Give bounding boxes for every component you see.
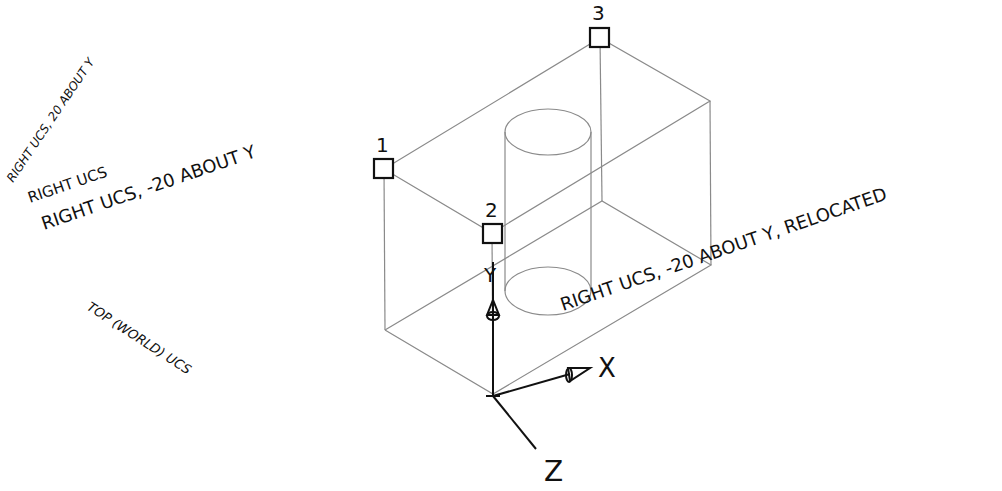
label-right-ucs-20-about-y: RIGHT UCS, 20 ABOUT Y — [4, 54, 98, 184]
label-relocated: RIGHT UCS, -20 ABOUT Y, RELOCATED — [557, 183, 889, 315]
svg-text:3: 3 — [592, 1, 605, 25]
svg-text:2: 2 — [485, 198, 498, 222]
box-wireframe — [384, 38, 711, 394]
y-axis-label: Y — [483, 263, 497, 287]
pick-point-3[interactable]: 3 — [590, 1, 609, 47]
svg-text:1: 1 — [376, 133, 389, 157]
label-top-world-ucs: TOP (WORLD) UCS — [84, 299, 194, 377]
x-axis-label: X — [598, 353, 616, 383]
x-arrow-icon — [566, 368, 590, 382]
pick-point-2[interactable]: 2 — [483, 198, 502, 243]
ucs-diagram: 1 2 3 Y X Z RIGHT UCS, 20 ABOUT Y RIGHT … — [0, 0, 1002, 491]
pick-point-1[interactable]: 1 — [374, 133, 393, 178]
cylinder — [505, 109, 591, 315]
z-axis-label: Z — [544, 455, 563, 488]
